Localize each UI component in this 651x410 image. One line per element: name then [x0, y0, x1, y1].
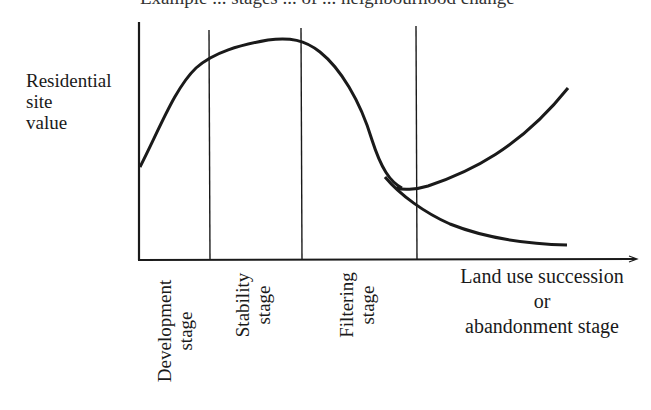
- stage-divider-2: [301, 28, 302, 260]
- y-label-line: value: [26, 112, 111, 133]
- neighbourhood-life-cycle-diagram: [0, 0, 651, 410]
- stage-label-line: Land use succession: [432, 264, 651, 289]
- value-curve: [140, 39, 402, 188]
- stage-label-line: stage: [357, 260, 378, 350]
- stage-label-line: Development: [154, 261, 175, 401]
- stage-label-filtering: Filtering stage: [336, 260, 378, 350]
- y-label-line: Residential: [26, 70, 111, 91]
- stage-label-line: Stability: [232, 260, 253, 350]
- stage-label-line: stage: [175, 261, 196, 401]
- abandonment-curve: [385, 177, 567, 245]
- y-axis-label: Residential site value: [26, 70, 111, 133]
- succession-curve: [396, 88, 568, 189]
- stage-divider-3: [416, 26, 417, 260]
- stage-label-line: Filtering: [336, 260, 357, 350]
- stage-divider-1: [209, 30, 210, 260]
- stage-label-line: stage: [253, 260, 274, 350]
- stage-label-stability: Stability stage: [232, 260, 274, 350]
- y-label-line: site: [26, 91, 111, 112]
- stage-label-line: or: [432, 289, 651, 314]
- x-axis: [138, 259, 636, 260]
- stage-label-development: Development stage: [154, 261, 196, 401]
- stage-label-succession: Land use succession or abandonment stage: [432, 264, 651, 339]
- stage-label-line: abandonment stage: [432, 314, 651, 339]
